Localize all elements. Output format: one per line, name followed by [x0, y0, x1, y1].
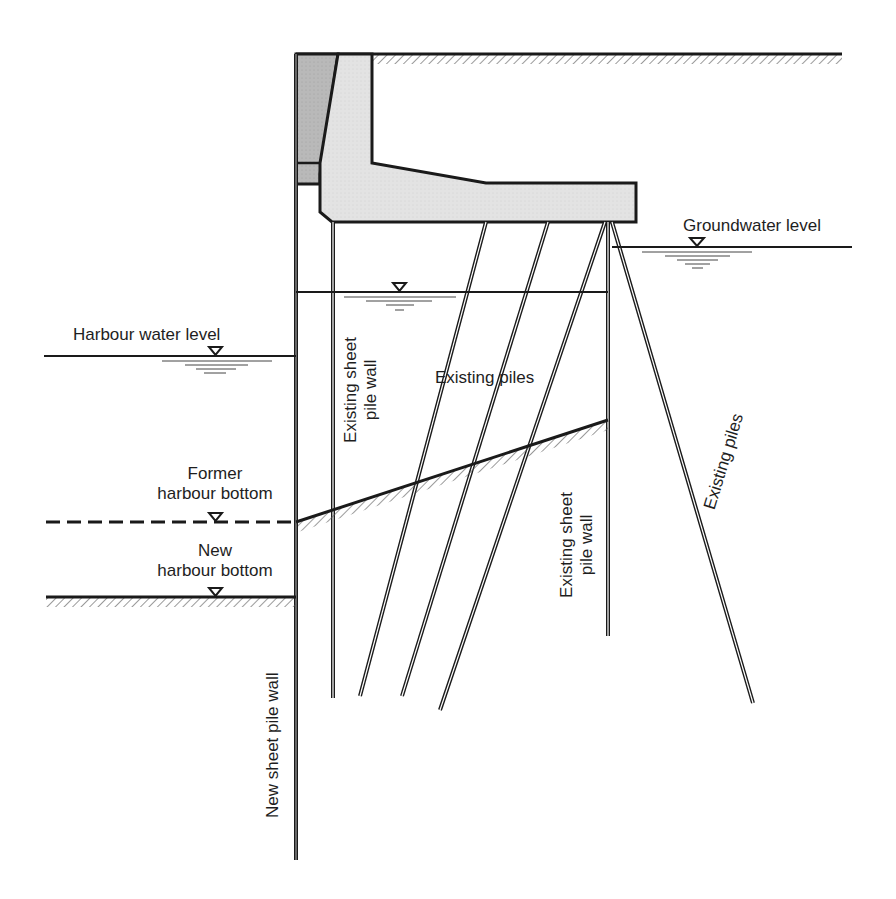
water-level-triangle-icon	[393, 283, 406, 291]
concrete-superstructure	[320, 54, 636, 222]
former-harbour-bottom-label: Former harbour bottom	[115, 464, 315, 504]
new-harbour-bottom-label: New harbour bottom	[115, 541, 315, 581]
existing-piles-label: Existing piles	[435, 368, 534, 388]
water-level-triangle-icon	[209, 588, 222, 596]
internal-water-level-marker	[296, 283, 608, 310]
existing-sheet-pile-wall-right-line2: pile wall	[577, 465, 597, 625]
diagram-canvas: Groundwater level Harbour water level Ex…	[0, 0, 896, 899]
water-level-triangle-icon	[209, 347, 222, 355]
groundwater-level-marker	[612, 238, 852, 268]
top-ground-surface	[296, 54, 842, 64]
existing-sheet-pile-wall-right-line1: Existing sheet	[557, 465, 577, 625]
new-harbour-bottom-line1: New	[115, 541, 315, 561]
new-sheet-pile-wall-label: New sheet pile wall	[263, 672, 283, 818]
cross-section-drawing	[0, 0, 896, 899]
former-harbour-bottom-marker	[46, 513, 296, 522]
new-harbour-bottom-line2: harbour bottom	[115, 561, 315, 581]
existing-sheet-pile-wall-left-label: Existing sheet pile wall	[341, 310, 381, 470]
existing-sheet-pile-wall-left-line1: Existing sheet	[341, 310, 361, 470]
ground-hatch-top	[372, 55, 842, 64]
existing-sheet-pile-wall-left-line2: pile wall	[361, 310, 381, 470]
groundwater-level-label: Groundwater level	[683, 216, 821, 236]
water-level-triangle-icon	[209, 513, 222, 521]
harbour-water-level-marker	[44, 347, 296, 373]
harbour-water-level-label: Harbour water level	[73, 325, 220, 345]
water-level-triangle-icon	[690, 238, 704, 246]
former-harbour-bottom-line2: harbour bottom	[115, 484, 315, 504]
existing-sheet-pile-wall-right-label: Existing sheet pile wall	[557, 465, 597, 625]
new-bottom-hatch	[46, 598, 296, 607]
new-harbour-bottom-marker	[46, 588, 296, 607]
former-harbour-bottom-line1: Former	[115, 464, 315, 484]
